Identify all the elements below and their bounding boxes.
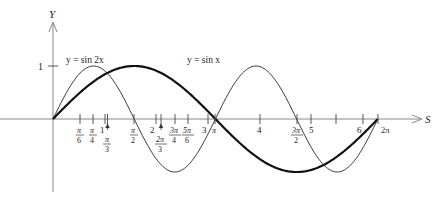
tick-5pi-6-den: 6: [185, 136, 189, 145]
label-sin-2x-text: y = sin 2x: [66, 55, 104, 65]
tick-pi-6-num: π: [77, 126, 82, 135]
tick-1: 1: [100, 125, 105, 135]
tick-pi-4-den: 4: [90, 136, 94, 145]
label-sin-x: y = sin x: [187, 55, 220, 65]
tick-pi-3-den: 3: [105, 145, 109, 154]
tick-pi-2-den: 2: [131, 136, 135, 145]
tick-5pi-6-num: 5π: [183, 126, 192, 135]
x-axis-label: S: [425, 113, 431, 125]
tick-3pi-4-num: 3π: [169, 126, 179, 135]
tick-3pi-2-num: 3π: [291, 126, 301, 135]
tick-pi-3-num: π: [105, 135, 110, 144]
tick-2pi: 2π: [381, 125, 390, 135]
label-sin-x-text: y = sin x: [187, 55, 220, 65]
tick-4: 4: [257, 125, 262, 135]
tick-2pi-text: 2π: [381, 125, 390, 135]
label-sin-2x: y = sin 2x: [66, 55, 104, 65]
tick-5: 5: [309, 125, 314, 135]
sine-chart: Y S 1 y = sin 2x y = sin x π 6 π 4 1 π 3…: [0, 0, 438, 200]
y-tick-label-1: 1: [38, 61, 43, 72]
tick-2: 2: [150, 125, 155, 135]
tick-pi-6-den: 6: [77, 136, 81, 145]
tick-3pi-2-den: 2: [294, 136, 298, 145]
y-axis-label: Y: [49, 8, 57, 20]
tick-pi-2-num: π: [131, 126, 136, 135]
tick-pi: π: [212, 126, 217, 135]
tick-2pi-3-num: 2π: [156, 135, 165, 144]
tick-6: 6: [357, 125, 362, 135]
tick-2pi-3-den: 3: [158, 145, 162, 154]
x-ticks: π 6 π 4 1 π 3 π 2 2 2π 3 3π 4: [76, 114, 390, 154]
tick-pi-4-num: π: [90, 126, 95, 135]
tick-3: 3: [202, 125, 207, 135]
tick-3pi-4-den: 4: [172, 136, 176, 145]
